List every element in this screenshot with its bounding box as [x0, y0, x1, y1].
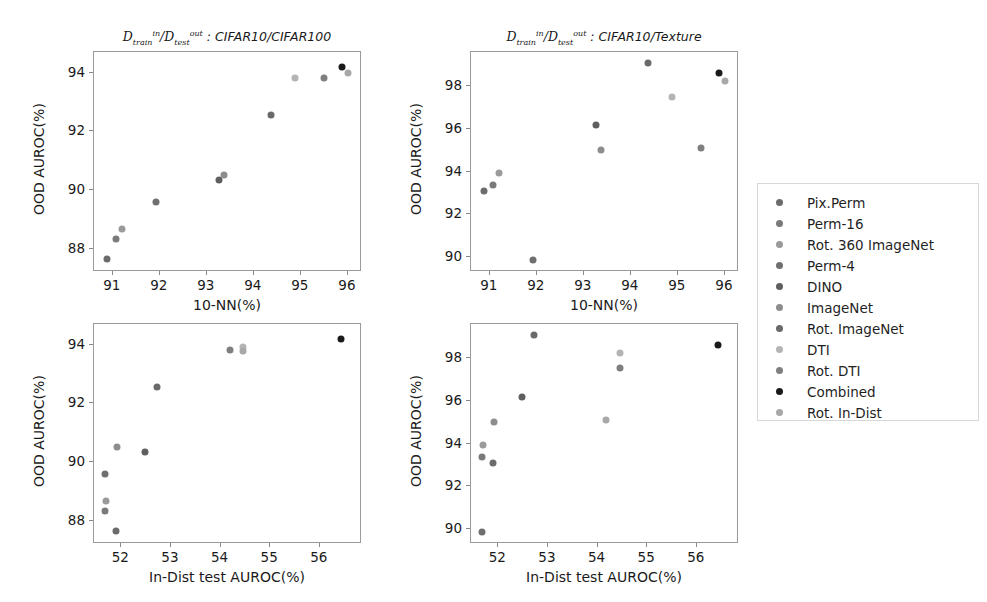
x-tick-label: 92 [150, 277, 167, 293]
legend-item-rot-imagenet[interactable]: Rot. ImageNet [758, 318, 978, 339]
y-tick-label: 98 [432, 349, 462, 365]
x-tick-mark [696, 543, 697, 547]
legend-item-combined[interactable]: Combined [758, 381, 978, 402]
data-point [103, 255, 110, 262]
data-point [490, 459, 497, 466]
y-axis-label: OOD AUROC(%) [31, 103, 47, 215]
data-point [530, 256, 537, 263]
panel-title-top-left: Dtrainin/Dtestout : CIFAR10/CIFAR100 [93, 29, 361, 47]
legend-marker-icon [776, 241, 783, 248]
legend-item-label: DTI [807, 342, 830, 358]
legend-item-label: Perm-4 [807, 258, 855, 274]
y-tick-label: 94 [432, 435, 462, 451]
x-tick-label: 96 [338, 277, 355, 293]
x-tick-mark [724, 271, 725, 275]
x-tick-mark [547, 543, 548, 547]
data-point [479, 528, 486, 535]
x-tick-mark [120, 543, 121, 547]
plot-area-top-right[interactable] [470, 51, 738, 271]
legend-marker-icon [776, 283, 783, 290]
data-point [668, 93, 675, 100]
panel-bottom-right: 52535455569092949698In-Dist test AUROC(%… [470, 323, 738, 543]
x-tick-mark [253, 271, 254, 275]
y-tick-label: 96 [432, 120, 462, 136]
plot-area-bottom-right[interactable] [470, 323, 738, 543]
x-tick-mark [300, 271, 301, 275]
legend-item-label: Rot. 360 ImageNet [807, 237, 934, 253]
legend-item-dti[interactable]: DTI [758, 339, 978, 360]
legend-marker-icon [776, 304, 783, 311]
x-tick-label: 94 [244, 277, 261, 293]
data-point [153, 198, 160, 205]
x-tick-label: 54 [211, 549, 228, 565]
data-point [721, 78, 728, 85]
legend-item-dino[interactable]: DINO [758, 276, 978, 297]
legend-item-pix-perm[interactable]: Pix.Perm [758, 192, 978, 213]
y-tick-label: 94 [55, 64, 85, 80]
data-point [344, 70, 351, 77]
x-tick-mark [347, 271, 348, 275]
legend-marker-icon [776, 409, 783, 416]
y-tick-label: 94 [432, 163, 462, 179]
y-tick-label: 90 [55, 181, 85, 197]
x-tick-label: 53 [161, 549, 178, 565]
y-tick-label: 96 [432, 392, 462, 408]
legend-marker-icon [776, 325, 783, 332]
y-tick-label: 90 [55, 453, 85, 469]
legend-item-rot-360-imagenet[interactable]: Rot. 360 ImageNet [758, 234, 978, 255]
x-tick-label: 92 [527, 277, 544, 293]
x-tick-mark [269, 543, 270, 547]
data-point [102, 470, 109, 477]
x-tick-mark [583, 271, 584, 275]
data-point [221, 171, 228, 178]
y-tick-mark [466, 443, 470, 444]
figure-canvas: Dtrainin/Dtestout : CIFAR10/CIFAR100 919… [0, 0, 987, 602]
y-axis-label: OOD AUROC(%) [31, 375, 47, 487]
data-point [479, 453, 486, 460]
x-tick-label: 95 [668, 277, 685, 293]
x-axis-label: 10-NN(%) [470, 297, 738, 313]
y-tick-label: 92 [55, 394, 85, 410]
y-tick-label: 92 [432, 205, 462, 221]
plot-area-bottom-left[interactable] [93, 323, 361, 543]
data-point [102, 507, 109, 514]
legend-marker-icon [776, 367, 783, 374]
x-tick-mark [206, 271, 207, 275]
legend-marker-icon [776, 388, 783, 395]
legend-marker-icon [776, 262, 783, 269]
data-point [603, 416, 610, 423]
y-axis-label: OOD AUROC(%) [408, 103, 424, 215]
y-tick-label: 92 [432, 477, 462, 493]
x-tick-mark [536, 271, 537, 275]
x-axis-label: In-Dist test AUROC(%) [93, 569, 361, 585]
plot-area-top-left[interactable] [93, 51, 361, 271]
y-tick-mark [466, 128, 470, 129]
x-tick-mark [677, 271, 678, 275]
data-point [490, 181, 497, 188]
y-axis-label: OOD AUROC(%) [408, 375, 424, 487]
data-point [480, 441, 487, 448]
legend-item-imagenet[interactable]: ImageNet [758, 297, 978, 318]
legend-item-label: Rot. In-Dist [807, 405, 882, 421]
legend-item-rot-in-dist[interactable]: Rot. In-Dist [758, 402, 978, 423]
legend-item-label: Rot. ImageNet [807, 321, 904, 337]
legend-item-perm-4[interactable]: Perm-4 [758, 255, 978, 276]
panel-title-datasets: CIFAR10/CIFAR100 [215, 29, 331, 44]
panel-title-datasets: CIFAR10/Texture [599, 29, 702, 44]
legend-item-label: Perm-16 [807, 216, 863, 232]
data-point [215, 177, 222, 184]
y-tick-label: 92 [55, 122, 85, 138]
legend-item-perm-16[interactable]: Perm-16 [758, 213, 978, 234]
data-point [491, 418, 498, 425]
y-tick-label: 88 [55, 240, 85, 256]
data-point [239, 347, 246, 354]
data-point [716, 69, 723, 76]
data-point [337, 336, 344, 343]
data-point [531, 331, 538, 338]
data-point [154, 384, 161, 391]
y-tick-mark [466, 85, 470, 86]
legend-item-rot-dti[interactable]: Rot. DTI [758, 360, 978, 381]
data-point [114, 443, 121, 450]
y-tick-label: 90 [432, 520, 462, 536]
y-tick-mark [466, 171, 470, 172]
